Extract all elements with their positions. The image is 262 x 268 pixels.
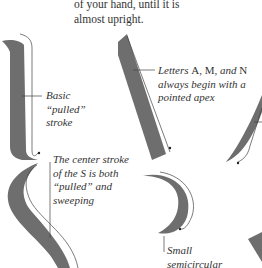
arrow-dot-icon: [237, 162, 239, 164]
arrow-dot-icon: [179, 228, 181, 230]
caption-line: Letters A, M, and N: [158, 64, 262, 78]
caption-line: semicircular: [167, 258, 222, 268]
caption-line: “pulled”: [46, 103, 86, 117]
pulled-stroke-shape: [2, 40, 38, 160]
caption-line: sweeping: [53, 194, 129, 208]
caption-line: stroke: [46, 116, 86, 130]
caption-pulled-stroke: Basic “pulled” stroke: [46, 89, 86, 130]
letter-n: N: [237, 64, 248, 76]
caption-line: Basic: [46, 89, 86, 103]
caption-s-center: The center stroke of the S is both “pull…: [53, 153, 129, 207]
caption-semicircular: Small semicircular: [167, 244, 222, 268]
calligraphy-stroke-diagram: [0, 0, 262, 268]
triangle-stroke-shape: [248, 232, 262, 262]
arrow-dot-icon: [38, 152, 40, 154]
caption-text: Letters: [158, 64, 191, 76]
caption-apex: Letters A, M, and N always begin with a …: [158, 64, 262, 105]
right-diagonal-stroke-shape: [226, 95, 262, 162]
caption-line: “pulled” and: [53, 180, 129, 194]
caption-line: pointed apex: [158, 91, 262, 105]
letter-m: M: [205, 64, 215, 76]
caption-line: The center stroke: [53, 153, 129, 167]
caption-line: always begin with a: [158, 78, 262, 92]
caption-line: Small: [167, 244, 222, 258]
caption-text: and: [220, 64, 237, 76]
semicircular-stroke-shape: [143, 175, 188, 234]
caption-line: of the S is both: [53, 167, 129, 181]
arrow-dot-icon: [169, 147, 171, 149]
